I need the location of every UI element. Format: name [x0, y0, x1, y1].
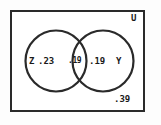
- region-value-left-only: .23: [38, 57, 54, 66]
- venn-diagram: U Z .23 .19 .19 Y .39: [0, 0, 161, 125]
- region-value-outside: .39: [114, 95, 130, 104]
- set-label-z: Z: [29, 57, 34, 66]
- region-value-right-only: .19: [89, 57, 105, 66]
- universe-label: U: [131, 14, 136, 23]
- set-label-y: Y: [116, 57, 121, 66]
- region-value-intersection: .19: [68, 57, 81, 65]
